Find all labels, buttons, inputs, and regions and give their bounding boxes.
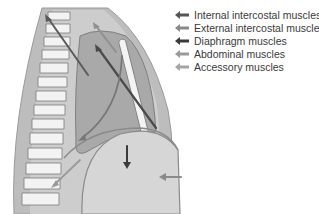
- legend-label: External intercostal muscles: [194, 22, 319, 34]
- legend-item: External intercostal muscles: [175, 21, 319, 34]
- arrow-left-icon: [175, 63, 189, 71]
- legend-item: Abdominal muscles: [175, 47, 319, 60]
- legend-label: Abdominal muscles: [194, 48, 285, 60]
- legend-item: Accessory muscles: [175, 60, 319, 73]
- arrow-left-icon: [175, 24, 189, 32]
- legend-item: Diaphragm muscles: [175, 34, 319, 47]
- arrow-left-icon: [175, 50, 189, 58]
- arrow-left-icon: [175, 37, 189, 45]
- legend-label: Internal intercostal muscles: [194, 9, 319, 21]
- arrow-left-icon: [175, 11, 189, 19]
- legend-item: Internal intercostal muscles: [175, 8, 319, 21]
- legend: Internal intercostal muscles External in…: [175, 8, 319, 73]
- legend-label: Accessory muscles: [194, 61, 284, 73]
- legend-label: Diaphragm muscles: [194, 35, 287, 47]
